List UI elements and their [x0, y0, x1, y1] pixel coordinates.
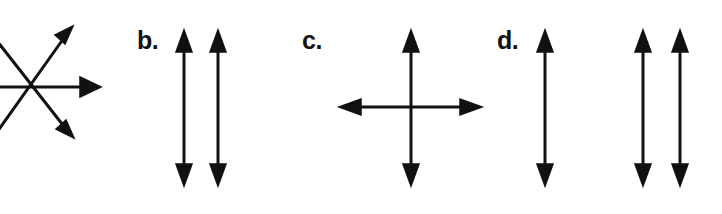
- panel-label-b: b.: [137, 28, 158, 53]
- arrowhead-right: [80, 77, 101, 97]
- arrowhead-up: [672, 30, 688, 52]
- panel-label-d: d.: [497, 28, 518, 53]
- panel-c-arrow-group: [339, 30, 482, 186]
- arrowhead-down: [635, 164, 651, 186]
- arrowhead-down: [210, 164, 226, 186]
- arrowhead-up: [176, 30, 192, 52]
- panel-a-arrow-group: [0, 26, 101, 142]
- arrowhead-left: [339, 99, 361, 115]
- panel-d-vertical-double-arrow-3: [672, 30, 688, 186]
- arrowhead-up: [537, 30, 553, 52]
- arrowhead-right: [460, 99, 482, 115]
- panel-a-down-right-arrow: [0, 32, 74, 138]
- arrowhead-up: [635, 30, 651, 52]
- arrow-diagram-svg: [0, 0, 722, 214]
- arrowhead-down: [537, 164, 553, 186]
- arrowhead-down-right: [56, 120, 74, 138]
- panel-label-c: c.: [302, 28, 322, 53]
- arrowhead-down: [176, 164, 192, 186]
- panel-a-right-arrow: [0, 77, 101, 97]
- panel-d-vertical-double-arrow-2: [635, 30, 651, 186]
- arrowhead-up: [210, 30, 226, 52]
- arrowhead-down: [403, 164, 419, 186]
- panel-b-vertical-double-arrow-2: [210, 30, 226, 186]
- panel-b-vertical-double-arrow-1: [176, 30, 192, 186]
- arrowhead-down: [672, 164, 688, 186]
- panel-d-vertical-double-arrow-1: [537, 30, 553, 186]
- panel-b-arrow-group: [176, 30, 226, 186]
- arrowhead-up: [403, 30, 419, 52]
- arrowhead-up-right: [55, 26, 73, 44]
- figure-container: b. c. d.: [0, 0, 722, 214]
- panel-d-arrow-group: [537, 30, 688, 186]
